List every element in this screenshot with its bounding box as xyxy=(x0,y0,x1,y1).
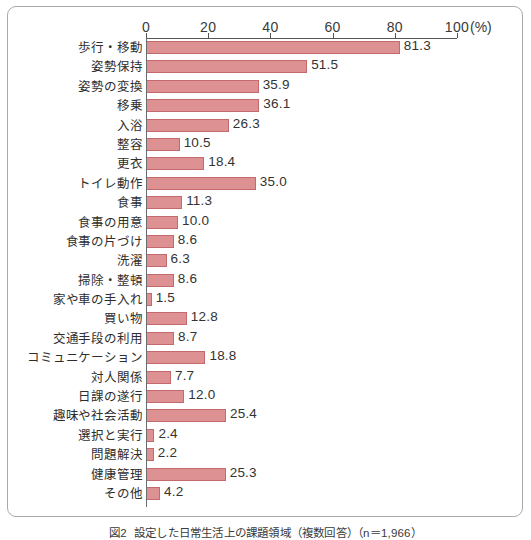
figure-caption: 図2設定した日常生活上の課題領域（複数回答）（n＝1,966） xyxy=(0,524,531,540)
bar-chart: 020406080100(%) 歩行・移動81.3姿勢保持51.5姿勢の変換35… xyxy=(0,0,531,518)
x-axis-tick xyxy=(395,33,396,38)
bar-container xyxy=(147,351,205,364)
bar-category-label: 日課の遂行 xyxy=(0,389,146,405)
bar-category-label: 交通手段の利用 xyxy=(0,331,146,347)
bar-value-label: 10.0 xyxy=(182,213,209,228)
bar xyxy=(147,235,174,248)
bar-row: コミュニケーション18.8 xyxy=(0,349,531,368)
bar xyxy=(147,448,154,461)
bar xyxy=(147,332,174,345)
bar-value-label: 18.8 xyxy=(209,348,236,363)
bar-category-label: 食事の片づけ xyxy=(0,234,146,250)
bar-category-label: 趣味や社会活動 xyxy=(0,408,146,424)
bar xyxy=(147,80,259,93)
bar-row: 姿勢保持51.5 xyxy=(0,58,531,77)
bar-category-label: 洗濯 xyxy=(0,253,146,269)
bar-container xyxy=(147,312,187,325)
bar-row: 掃除・整頓8.6 xyxy=(0,272,531,291)
bar xyxy=(147,99,259,112)
bar-value-label: 81.3 xyxy=(404,38,431,53)
bar-row: 日課の遂行12.0 xyxy=(0,388,531,407)
bar xyxy=(147,468,226,481)
bar-category-label: その他 xyxy=(0,486,146,502)
bar-row: 交通手段の利用8.7 xyxy=(0,330,531,349)
bar-value-label: 12.0 xyxy=(188,387,215,402)
bar-container xyxy=(147,254,167,267)
bar-value-label: 10.5 xyxy=(184,135,211,150)
bar-container xyxy=(147,429,154,442)
bar-container xyxy=(147,99,259,112)
bar xyxy=(147,293,152,306)
bar xyxy=(147,312,187,325)
bar-row: トイレ動作35.0 xyxy=(0,175,531,194)
bar xyxy=(147,371,171,384)
bar-value-label: 2.2 xyxy=(158,445,177,460)
bar-row: 入浴26.3 xyxy=(0,117,531,136)
x-axis-tick xyxy=(457,33,458,38)
bar-row: 食事の片づけ8.6 xyxy=(0,233,531,252)
bar xyxy=(147,216,178,229)
bar-row: 食事の用意10.0 xyxy=(0,214,531,233)
bar-value-label: 26.3 xyxy=(233,116,260,131)
bar-category-label: 対人関係 xyxy=(0,370,146,386)
bar-row: 整容10.5 xyxy=(0,136,531,155)
bar-value-label: 12.8 xyxy=(191,309,218,324)
bar-category-label: 整容 xyxy=(0,137,146,153)
bar-row: 食事11.3 xyxy=(0,194,531,213)
bar xyxy=(147,157,204,170)
bar-container xyxy=(147,177,256,190)
bar-category-label: 歩行・移動 xyxy=(0,40,146,56)
bar-container xyxy=(147,448,154,461)
bar xyxy=(147,196,182,209)
bar-value-label: 8.7 xyxy=(178,329,197,344)
figure-caption-number: 図2 xyxy=(109,527,127,539)
bar-category-label: トイレ動作 xyxy=(0,176,146,192)
bar-row: 姿勢の変換35.9 xyxy=(0,78,531,97)
bar-container xyxy=(147,119,229,132)
bar-container xyxy=(147,80,259,93)
bar xyxy=(147,409,226,422)
bar-value-label: 18.4 xyxy=(208,154,235,169)
bar-row: 移乗36.1 xyxy=(0,97,531,116)
x-axis-label-row: 020406080100(%) xyxy=(0,19,531,35)
bar-category-label: 買い物 xyxy=(0,311,146,327)
bar-value-label: 36.1 xyxy=(263,96,290,111)
bar-value-label: 6.3 xyxy=(171,251,190,266)
bar-container xyxy=(147,157,204,170)
bar-row: 更衣18.4 xyxy=(0,155,531,174)
bar xyxy=(147,119,229,132)
bar-value-label: 25.3 xyxy=(230,465,257,480)
bar xyxy=(147,487,160,500)
bar-container xyxy=(147,235,174,248)
bar-category-label: 選択と実行 xyxy=(0,428,146,444)
x-axis-unit-label: (%) xyxy=(470,19,492,35)
bar-category-label: 更衣 xyxy=(0,156,146,172)
bar-category-label: 姿勢保持 xyxy=(0,59,146,75)
bar-value-label: 8.6 xyxy=(178,232,197,247)
bar-row: その他4.2 xyxy=(0,485,531,504)
bar-category-label: 移乗 xyxy=(0,98,146,114)
bar-container xyxy=(147,293,152,306)
bar-value-label: 11.3 xyxy=(186,193,212,208)
bar-value-label: 35.0 xyxy=(260,174,287,189)
bar xyxy=(147,177,256,190)
x-axis-tick xyxy=(333,33,334,38)
bar-row: 問題解決2.2 xyxy=(0,446,531,465)
figure-caption-text: 設定した日常生活上の課題領域（複数回答）（n＝1,966） xyxy=(134,527,422,539)
bar-container xyxy=(147,196,182,209)
bar xyxy=(147,351,205,364)
bar-container xyxy=(147,487,160,500)
bar xyxy=(147,254,167,267)
bar-category-label: 入浴 xyxy=(0,118,146,134)
bar-container xyxy=(147,60,307,73)
bar-container xyxy=(147,468,226,481)
bar xyxy=(147,41,400,54)
bar xyxy=(147,390,184,403)
bar-value-label: 51.5 xyxy=(311,57,338,72)
bar-row: 家や車の手入れ1.5 xyxy=(0,291,531,310)
bar-value-label: 35.9 xyxy=(263,77,290,92)
bar-row: 買い物12.8 xyxy=(0,310,531,329)
bar-category-label: 家や車の手入れ xyxy=(0,292,146,308)
bar-category-label: 食事の用意 xyxy=(0,215,146,231)
bar-category-label: 問題解決 xyxy=(0,447,146,463)
